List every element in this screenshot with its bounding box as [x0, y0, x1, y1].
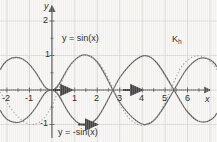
- curve-family-subscript: h: [178, 38, 182, 45]
- sin-curve-label: y = sin(x): [62, 34, 99, 43]
- x-tick-label-neg2: -2: [2, 94, 10, 103]
- x-axis-label: x: [205, 95, 210, 104]
- plot-canvas: [0, 0, 217, 142]
- y-tick-label-neg1: -1: [40, 119, 48, 128]
- x-tick-label-2: 2: [94, 94, 99, 103]
- neg-sin-curve-label: y = -sin(x): [58, 128, 98, 137]
- y-tick-label-2: 2: [43, 16, 48, 25]
- sine-graph-figure: y x 2 1 -1 -2 -1 1 2 3 4 5 6 y = sin(x) …: [0, 0, 217, 142]
- y-tick-label-1: 1: [45, 50, 50, 59]
- x-tick-label-3: 3: [117, 94, 122, 103]
- y-axis-label: y: [44, 2, 49, 11]
- x-tick-label-1: 1: [72, 94, 77, 103]
- x-tick-label-neg1: -1: [25, 94, 33, 103]
- x-tick-label-4: 4: [139, 94, 144, 103]
- x-tick-label-5: 5: [162, 94, 167, 103]
- curve-family-label: Kh: [172, 35, 182, 44]
- x-tick-label-6: 6: [185, 94, 190, 103]
